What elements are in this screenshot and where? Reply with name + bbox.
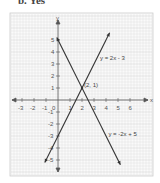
y-tick-label: -2: [48, 121, 54, 127]
x-tick-label: -3: [18, 105, 24, 111]
x-tick-label: -2: [30, 105, 36, 111]
annotation-label: y = 2x - 3: [100, 55, 126, 61]
y-axis-label: y: [56, 15, 59, 21]
intersection-point: [81, 87, 83, 89]
plot-area: [10, 13, 153, 176]
x-axis-label: x: [150, 97, 153, 103]
y-tick-label: -3: [48, 133, 54, 139]
annotation-label: (2, 1): [84, 82, 98, 88]
y-tick-label: -5: [48, 157, 54, 163]
coordinate-plane: x y -3-2-112345654321-1-2-3-4-50 (2, 1)y…: [0, 0, 160, 183]
annotation-label: y = -2x + 5: [108, 131, 137, 137]
